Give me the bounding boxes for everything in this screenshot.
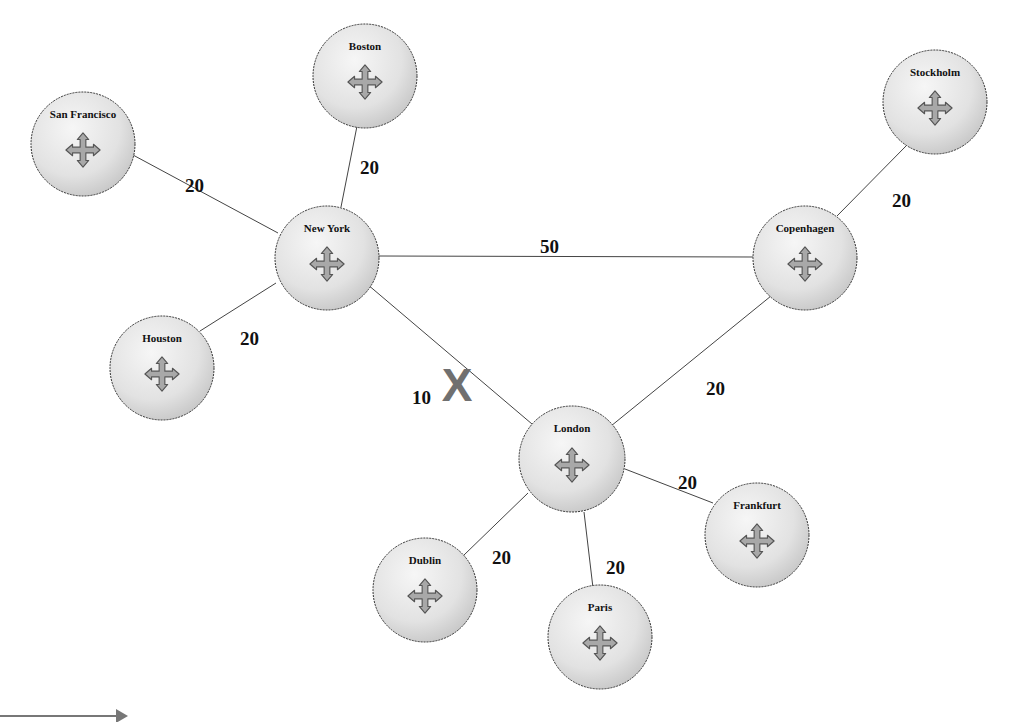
node-label: San Francisco	[50, 108, 117, 120]
edge-weight-label: 20	[240, 328, 259, 349]
edge-weight-label: 10	[412, 387, 431, 408]
edge-houston-new-york	[200, 283, 276, 331]
edge-copenhagen-london	[611, 296, 771, 426]
node-paris[interactable]: Paris	[548, 585, 652, 689]
node-label: Copenhagen	[776, 222, 835, 234]
edge-london-dublin	[464, 493, 528, 555]
edge-weight-label: 20	[606, 557, 625, 578]
edge-weight-label: 20	[360, 157, 379, 178]
node-label: Stockholm	[910, 66, 960, 78]
node-label: Frankfurt	[733, 499, 781, 511]
edge-london-paris	[584, 512, 593, 588]
edge-weight-label: 20	[185, 175, 204, 196]
edge-weight-label: 20	[892, 190, 911, 211]
node-copenhagen[interactable]: Copenhagen	[753, 206, 857, 310]
edge-san-francisco-new-york	[133, 155, 278, 233]
node-label: Dublin	[409, 554, 441, 566]
nodes-layer: BostonSan FranciscoNew YorkHoustonCopenh…	[31, 24, 987, 689]
edge-new-york-copenhagen	[378, 256, 753, 257]
arrow-icon	[0, 709, 128, 722]
edge-weight-label: 20	[706, 378, 725, 399]
node-dublin[interactable]: Dublin	[373, 538, 477, 642]
node-new-york[interactable]: New York	[275, 206, 379, 310]
node-label: Houston	[142, 332, 182, 344]
edge-weight-label: 20	[492, 547, 511, 568]
node-boston[interactable]: Boston	[313, 24, 417, 128]
edge-boston-new-york	[341, 121, 358, 207]
edge-london-frankfurt	[625, 469, 713, 503]
node-london[interactable]: London	[519, 406, 625, 512]
node-label: London	[554, 422, 591, 434]
node-stockholm[interactable]: Stockholm	[883, 50, 987, 154]
node-houston[interactable]: Houston	[110, 316, 214, 420]
edge-weight-label: 50	[540, 236, 559, 257]
node-label: Paris	[588, 601, 613, 613]
overlay-layer: X	[0, 359, 473, 722]
node-san-francisco[interactable]: San Francisco	[31, 92, 135, 196]
node-label: Boston	[349, 40, 381, 52]
node-label: New York	[304, 222, 351, 234]
edge-weight-label: 20	[678, 472, 697, 493]
link-failure-x-icon: X	[442, 359, 473, 411]
network-diagram: BostonSan FranciscoNew YorkHoustonCopenh…	[0, 0, 1010, 722]
node-frankfurt[interactable]: Frankfurt	[705, 483, 809, 587]
